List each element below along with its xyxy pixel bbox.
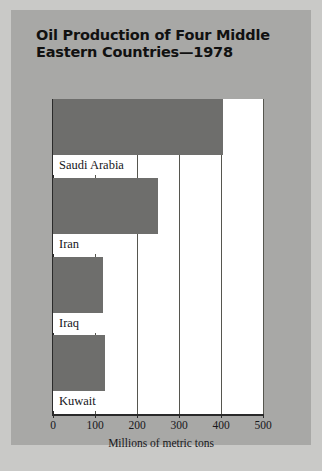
x-tick-label: 100 (75, 419, 115, 431)
x-axis-line (52, 414, 264, 416)
bar-label-iran: Iran (53, 234, 137, 254)
bar (53, 335, 105, 391)
bar (53, 257, 103, 313)
bar-label-saudi-arabia: Saudi Arabia (53, 155, 137, 175)
bar (53, 178, 158, 234)
x-tick (95, 414, 96, 418)
x-tick-label: 200 (117, 419, 157, 431)
x-axis-label: Millions of metric tons (11, 437, 311, 449)
x-tick-label: 500 (243, 419, 283, 431)
x-tick-label: 300 (159, 419, 199, 431)
gridline (263, 99, 264, 414)
x-tick-label: 400 (201, 419, 241, 431)
x-tick (137, 414, 138, 418)
bar (53, 99, 223, 155)
x-tick (221, 414, 222, 418)
x-tick-label: 0 (33, 419, 73, 431)
x-tick (263, 414, 264, 418)
bar-label-iraq: Iraq (53, 313, 137, 333)
x-tick (53, 414, 54, 418)
chart-title: Oil Production of Four Middle Eastern Co… (36, 27, 286, 60)
bar-label-kuwait: Kuwait (53, 391, 137, 411)
x-tick (179, 414, 180, 418)
chart-figure: Oil Production of Four Middle Eastern Co… (11, 10, 311, 445)
